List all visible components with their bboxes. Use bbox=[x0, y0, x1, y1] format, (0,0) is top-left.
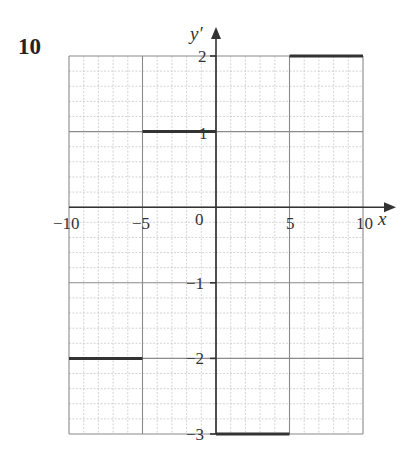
y-tick-label: −3 bbox=[186, 425, 204, 444]
y-tick-label: −1 bbox=[186, 274, 204, 293]
y-axis-label: y′ bbox=[188, 23, 203, 44]
x-tick-label: 5 bbox=[286, 214, 295, 233]
y-tick-label: 1 bbox=[199, 124, 208, 143]
y-tick-label: 2 bbox=[198, 47, 207, 66]
x-tick-label: 0 bbox=[195, 210, 204, 229]
x-tick-label: 10 bbox=[356, 214, 373, 233]
step-chart: −10 −5 0 5 10 x 2 1 −1 −2 −3 y′ bbox=[0, 0, 408, 451]
axes bbox=[69, 27, 396, 434]
x-tick-label: −5 bbox=[132, 214, 150, 233]
x-axis-label: x bbox=[377, 208, 387, 229]
x-tick-label: −10 bbox=[53, 214, 80, 233]
y-tick-label: −2 bbox=[186, 349, 204, 368]
